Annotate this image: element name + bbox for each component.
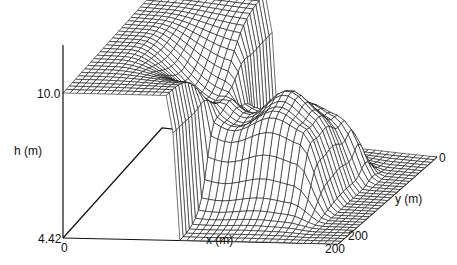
h-tick-top: 10.0 — [37, 88, 60, 100]
y-axis-label: y (m) — [395, 193, 422, 205]
h-axis-label: h (m) — [14, 145, 42, 157]
x-tick-end: 200 — [325, 243, 345, 255]
h-tick-bottom: 4.42 — [38, 233, 61, 245]
x-tick-origin: 0 — [61, 242, 68, 254]
x-axis-label: x (m) — [206, 234, 233, 246]
surface-mesh — [63, 0, 437, 244]
surface-plot — [0, 0, 457, 265]
y-tick-end: 200 — [348, 230, 368, 242]
y-tick-origin: 0 — [439, 152, 446, 164]
